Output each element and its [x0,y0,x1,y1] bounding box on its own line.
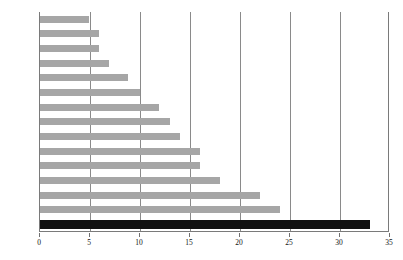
x-tick-10 [139,233,140,237]
bar-9 [40,148,200,155]
x-tick-label-5: 5 [87,238,91,247]
bar-row: 德国 [40,159,388,174]
bar-series: 希腊意大利西班牙葡萄牙卢森堡芬兰奥地利荷兰法国丹麦德国比利时爱尔兰英国美国 [40,12,388,231]
x-tick-25 [289,233,290,237]
bar-row: 爱尔兰 [40,188,388,203]
bar-0 [40,16,89,23]
x-axis: 05101520253035 [39,233,389,257]
bar-row: 芬兰 [40,85,388,100]
bar-row: 美国 [40,217,388,232]
bar-14 [40,220,370,229]
chart-title [0,0,403,6]
x-tick-35 [389,233,390,237]
bar-row: 荷兰 [40,115,388,130]
x-tick-label-25: 25 [285,238,293,247]
bar-row: 英国 [40,203,388,218]
bar-row: 希腊 [40,12,388,27]
bar-6 [40,104,159,111]
x-tick-label-15: 15 [185,238,193,247]
bar-row: 西班牙 [40,41,388,56]
x-tick-label-0: 0 [37,238,41,247]
bar-10 [40,162,200,169]
plot-area: 希腊意大利西班牙葡萄牙卢森堡芬兰奥地利荷兰法国丹麦德国比利时爱尔兰英国美国 [39,12,389,232]
bar-row: 奥地利 [40,100,388,115]
x-tick-label-30: 30 [335,238,343,247]
bar-chart: 希腊意大利西班牙葡萄牙卢森堡芬兰奥地利荷兰法国丹麦德国比利时爱尔兰英国美国 05… [0,0,403,260]
bar-13 [40,206,280,213]
x-tick-20 [239,233,240,237]
bar-11 [40,177,220,184]
x-tick-5 [89,233,90,237]
x-tick-label-35: 35 [385,238,393,247]
bar-8 [40,133,180,140]
bar-row: 卢森堡 [40,71,388,86]
bar-1 [40,30,99,37]
bar-3 [40,60,109,67]
x-tick-15 [189,233,190,237]
bar-12 [40,192,260,199]
bar-row: 比利时 [40,173,388,188]
bar-4 [40,74,128,81]
bar-5 [40,89,140,96]
x-tick-label-10: 10 [135,238,143,247]
bar-row: 意大利 [40,27,388,42]
bar-7 [40,118,170,125]
x-tick-label-20: 20 [235,238,243,247]
bar-2 [40,45,99,52]
x-tick-0 [39,233,40,237]
bar-row: 葡萄牙 [40,56,388,71]
bar-row: 丹麦 [40,144,388,159]
bar-row: 法国 [40,129,388,144]
x-tick-30 [339,233,340,237]
